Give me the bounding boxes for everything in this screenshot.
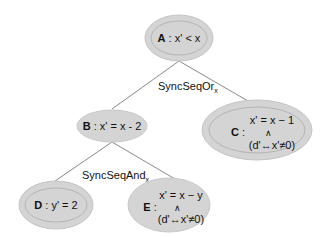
tree-diagram: SyncSeqOrx SyncSeqAndx A : x' < x B : x'… — [0, 0, 327, 238]
node-c-line1: x' = x − 1 — [250, 114, 294, 126]
node-e-line1: x' = x − y — [159, 189, 203, 201]
node-a: A : x' < x — [145, 15, 213, 61]
node-e-line2: (d'↔x'≠0) — [158, 213, 204, 225]
node-b: B : x' = x - 2 — [77, 110, 147, 142]
node-e-id: E : — [143, 201, 156, 213]
edge-label-syncseqor: SyncSeqOrx — [158, 80, 218, 94]
node-c-line2: (d'↔x'≠0) — [249, 139, 295, 151]
node-e-conj: ∧ — [174, 203, 181, 213]
node-c-conj: ∧ — [265, 128, 272, 138]
node-d-label: D : y' = 2 — [34, 199, 77, 211]
node-b-label: B : x' = x - 2 — [83, 120, 142, 132]
node-d: D : y' = 2 — [19, 181, 93, 229]
node-c: C : x' = x − 1 ∧ (d'↔x'≠0) — [202, 100, 312, 160]
edge-label-syncseqand: SyncSeqAndx — [82, 169, 150, 183]
node-c-id: C : — [231, 126, 245, 138]
node-e: E : x' = x − y ∧ (d'↔x'≠0) — [128, 178, 210, 232]
node-a-label: A : x' < x — [158, 32, 201, 44]
